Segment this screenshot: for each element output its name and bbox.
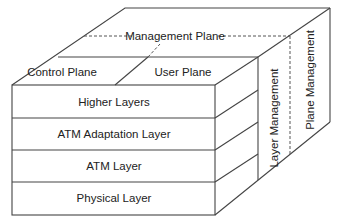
control-plane-label: Control Plane [27,66,97,78]
top-face: Management Plane Control Plane User Plan… [12,8,330,85]
side-layer-divider-3 [215,154,258,182]
atm-reference-model-diagram: Management Plane Control Plane User Plan… [0,0,338,222]
plane-management-label: Plane Management [304,29,316,130]
front-face: Higher Layers ATM Adaptation Layer ATM L… [12,85,215,215]
atm-layer-label: ATM Layer [86,160,142,172]
management-plane-label: Management Plane [125,30,225,42]
side-face: Layer Management Plane Management [215,8,330,215]
control-user-divider [115,57,148,85]
management-plane-dash-diagonal [148,44,160,57]
side-top-edge [215,57,258,85]
side-upper-diagonal [258,8,330,57]
layer-management-label: Layer Management [268,68,280,168]
physical-layer-label: Physical Layer [77,192,152,204]
side-layer-divider-1 [215,90,258,118]
higher-layers-label: Higher Layers [78,96,150,108]
side-layer-divider-2 [215,122,258,150]
atm-adaptation-layer-label: ATM Adaptation Layer [58,128,171,140]
user-plane-label: User Plane [155,66,212,78]
